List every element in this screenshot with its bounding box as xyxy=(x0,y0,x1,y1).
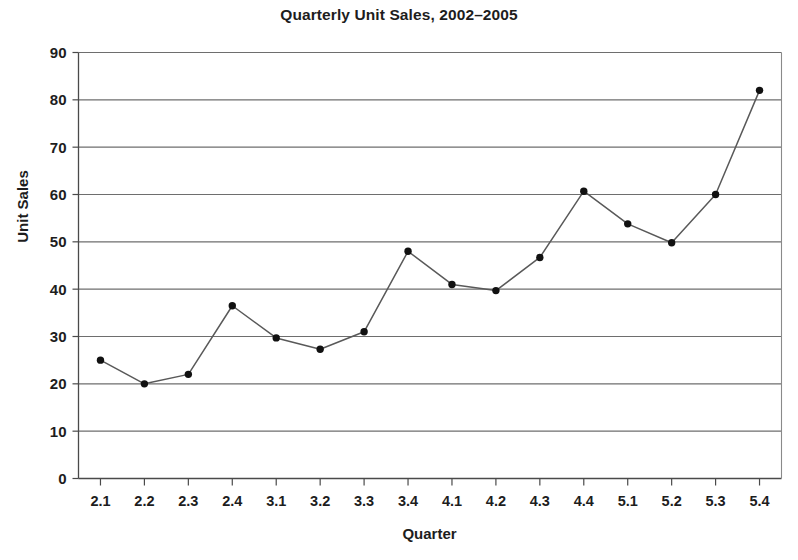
y-tick-label: 40 xyxy=(50,281,67,298)
x-tick-label: 5.3 xyxy=(706,493,726,509)
y-tick-label: 50 xyxy=(50,233,67,250)
plot-area: 0102030405060708090 2.12.22.32.43.13.23.… xyxy=(0,0,798,560)
x-tick-label: 5.4 xyxy=(749,493,769,509)
data-point xyxy=(492,287,499,294)
y-axis-ticks: 0102030405060708090 xyxy=(50,44,79,487)
data-point xyxy=(580,187,587,194)
x-tick-label: 5.1 xyxy=(618,493,638,509)
data-point xyxy=(97,356,104,363)
x-tick-label: 4.4 xyxy=(574,493,594,509)
data-point xyxy=(448,281,455,288)
y-tick-label: 0 xyxy=(58,470,66,487)
data-point xyxy=(404,248,411,255)
x-tick-label: 2.4 xyxy=(222,493,242,509)
chart-page: Quarterly Unit Sales, 2002–2005 Unit Sal… xyxy=(0,0,798,560)
y-tick-label: 60 xyxy=(50,186,67,203)
data-point xyxy=(360,328,367,335)
data-point xyxy=(273,334,280,341)
x-tick-label: 5.2 xyxy=(662,493,682,509)
y-tick-label: 70 xyxy=(50,139,67,156)
x-tick-label: 4.3 xyxy=(530,493,550,509)
y-tick-label: 90 xyxy=(50,44,67,61)
series-line xyxy=(100,90,759,383)
data-point xyxy=(536,254,543,261)
x-axis-ticks: 2.12.22.32.43.13.23.33.44.14.24.34.45.15… xyxy=(90,479,769,509)
data-point xyxy=(756,87,763,94)
x-tick-label: 4.2 xyxy=(486,493,506,509)
x-tick-label: 2.1 xyxy=(90,493,110,509)
x-tick-label: 3.1 xyxy=(266,493,286,509)
axes xyxy=(79,53,782,479)
gridlines xyxy=(79,53,782,432)
data-point xyxy=(316,346,323,353)
data-point xyxy=(624,220,631,227)
y-tick-label: 80 xyxy=(50,91,67,108)
x-tick-label: 3.3 xyxy=(354,493,374,509)
y-tick-label: 10 xyxy=(50,423,67,440)
x-tick-label: 2.2 xyxy=(134,493,154,509)
x-tick-label: 4.1 xyxy=(442,493,462,509)
y-tick-label: 30 xyxy=(50,328,67,345)
x-tick-label: 2.3 xyxy=(178,493,198,509)
data-point xyxy=(185,371,192,378)
data-point xyxy=(712,191,719,198)
y-tick-label: 20 xyxy=(50,375,67,392)
x-tick-label: 3.2 xyxy=(310,493,330,509)
data-point-markers xyxy=(97,87,763,388)
x-tick-label: 3.4 xyxy=(398,493,418,509)
data-point xyxy=(229,302,236,309)
data-point xyxy=(141,380,148,387)
data-point xyxy=(668,239,675,246)
